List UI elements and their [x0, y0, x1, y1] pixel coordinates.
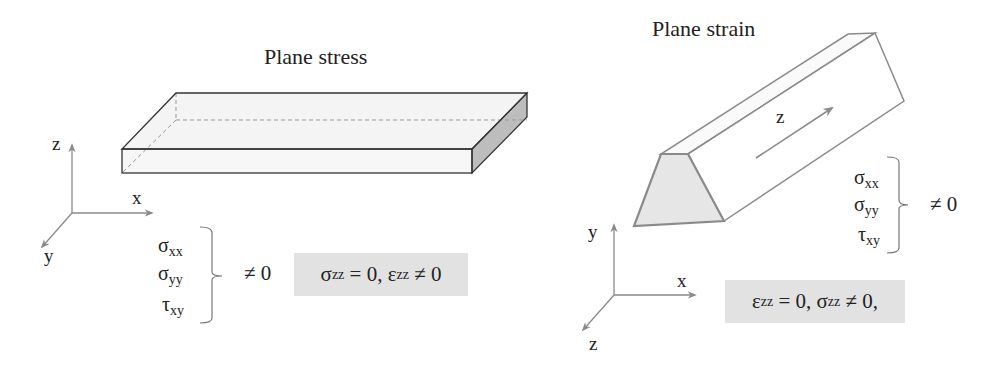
left-axis-z-label: z	[52, 133, 60, 155]
left-nonzero-label: ≠ 0	[244, 261, 271, 286]
plane-stress-condition: σzz = 0, εzz ≠ 0	[294, 253, 468, 296]
left-brace	[200, 227, 222, 323]
right-brace	[887, 157, 908, 253]
plate-solid	[122, 93, 527, 173]
right-nonzero-label: ≠ 0	[930, 192, 957, 217]
left-tau-xy: τxy	[162, 292, 184, 323]
right-axis-x-label: x	[677, 270, 687, 292]
right-tau-xy: τxy	[858, 222, 880, 253]
left-axis-y-label: y	[44, 245, 54, 267]
right-axis-z-label: z	[589, 333, 597, 355]
right-axis-y-label: y	[588, 221, 598, 243]
right-sigma-yy: σyy	[854, 192, 879, 223]
plane-strain-title: Plane strain	[652, 16, 755, 42]
prism-z-label: z	[776, 106, 784, 128]
plane-stress-title: Plane stress	[264, 44, 367, 70]
left-sigma-xx: σxx	[158, 233, 183, 264]
plane-strain-condition: εzz = 0, σzz ≠ 0,	[725, 280, 905, 323]
left-axis-x-label: x	[132, 187, 142, 209]
left-sigma-yy: σyy	[158, 261, 183, 292]
